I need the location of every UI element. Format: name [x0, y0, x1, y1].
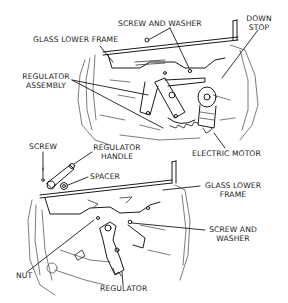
label-screw: SCREW — [29, 143, 57, 152]
label-regulator-handle-line2: HANDLE — [92, 153, 142, 162]
label-screw-and-washer-lower: SCREW AND WASHER — [206, 226, 260, 243]
label-screw-and-washer-line2: WASHER — [206, 235, 260, 244]
lower-door-panel — [28, 185, 190, 295]
diagram-canvas: SCREW AND WASHER DOWN STOP GLASS LOWER F… — [0, 0, 288, 303]
label-regulator-assembly: REGULATOR ASSEMBLY — [20, 73, 72, 90]
label-screw-and-washer-upper: SCREW AND WASHER — [118, 20, 202, 29]
lower-regulator — [75, 217, 145, 277]
label-down-stop: DOWN STOP — [241, 15, 277, 32]
upper-leader-lines — [72, 28, 258, 148]
upper-electric-motor — [198, 87, 216, 133]
label-glass-lower-frame-upper: GLASS LOWER FRAME — [33, 36, 118, 45]
label-spacer: SPACER — [90, 173, 120, 182]
label-nut: NUT — [16, 272, 32, 281]
upper-regulator-assembly — [140, 78, 205, 128]
upper-door-panel — [78, 45, 258, 145]
regulator-handle-parts — [42, 164, 75, 190]
label-electric-motor: ELECTRIC MOTOR — [192, 150, 261, 159]
label-regulator-assembly-line2: ASSEMBLY — [20, 82, 72, 91]
label-glass-lower-frame-lower: GLASS LOWER FRAME — [202, 182, 264, 199]
label-glass-lower-frame-line2: FRAME — [202, 191, 264, 200]
label-down-stop-line2: STOP — [241, 24, 277, 33]
label-regulator-handle: REGULATOR HANDLE — [92, 144, 142, 161]
label-regulator: REGULATOR — [100, 285, 147, 294]
